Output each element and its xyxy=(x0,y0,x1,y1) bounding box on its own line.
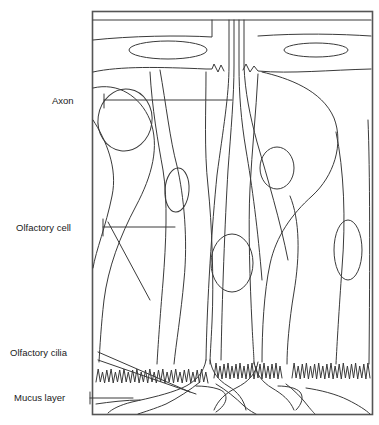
label-olfactory-cilia: Olfactory cilia xyxy=(10,347,68,358)
label-axon: Axon xyxy=(52,95,74,106)
label-olfactory-cell: Olfactory cell xyxy=(16,222,71,233)
olfactory-epithelium-diagram: AxonOlfactory cellOlfactory ciliaMucus l… xyxy=(0,0,379,425)
label-mucus-layer: Mucus layer xyxy=(14,392,65,403)
diagram-canvas: AxonOlfactory cellOlfactory ciliaMucus l… xyxy=(0,0,379,425)
diagram-frame xyxy=(93,12,373,415)
